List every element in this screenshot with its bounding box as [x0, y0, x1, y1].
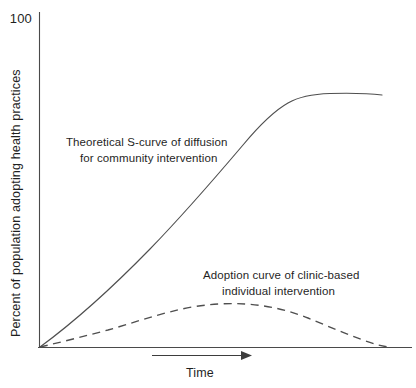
x-axis-title: Time — [186, 366, 214, 380]
adoption-curve-line — [40, 304, 388, 347]
s-curve-diffusion-line — [40, 93, 382, 347]
y-axis-tick-label-100: 100 — [10, 11, 32, 26]
annotation-adoption-line1: Adoption curve of clinic-based — [203, 269, 359, 281]
annotation-adoption-line2: individual intervention — [222, 285, 335, 297]
arrow-right-icon — [152, 351, 252, 360]
diffusion-curves-figure: 100 Percent of population adopting healt… — [0, 0, 416, 388]
y-axis-title: Percent of population adopting health pr… — [9, 69, 23, 337]
annotation-s-curve-line1: Theoretical S-curve of diffusion — [66, 136, 228, 148]
chart-canvas: 100 Percent of population adopting healt… — [0, 0, 416, 388]
annotation-s-curve-line2: for community intervention — [80, 152, 217, 164]
